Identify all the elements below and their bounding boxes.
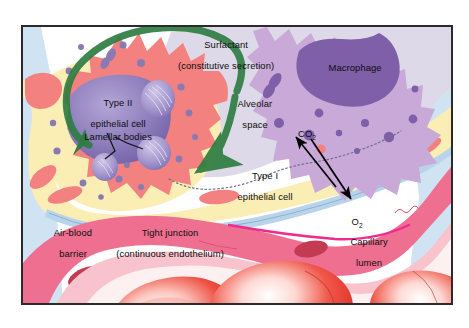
figure-stage: Surfactant (constitutive secretion) Macr… bbox=[0, 0, 469, 328]
figure-frame: Surfactant (constitutive secretion) Macr… bbox=[21, 25, 453, 305]
lamellar-body-3 bbox=[92, 153, 118, 181]
alveolar-diagram-illustration bbox=[23, 27, 451, 303]
